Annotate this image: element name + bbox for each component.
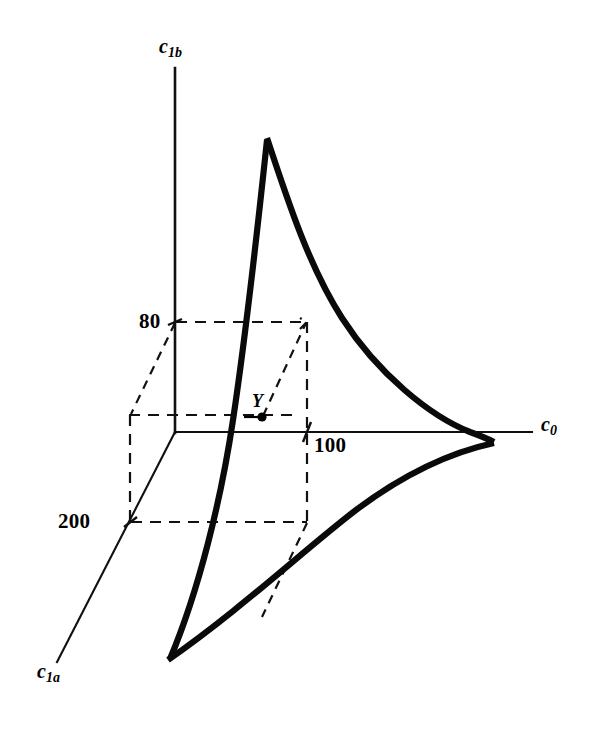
axis-group [57, 68, 532, 662]
point-label-Y: Y [252, 392, 263, 410]
axis-label-c1b-base: c [159, 35, 168, 57]
point-Y-group [244, 412, 267, 421]
axis-label-c1b-subscript: 1b [168, 45, 182, 60]
axis-label-c1b: c1b [159, 36, 182, 60]
point-Y-dot [257, 412, 266, 421]
curve-upper-branch [267, 138, 494, 442]
box-edge-diagonal-y-to-corner [263, 323, 306, 416]
curve-lower-branch [168, 443, 494, 660]
axis-c1a-line [57, 432, 175, 662]
curve-group [168, 138, 494, 660]
figure-canvas [0, 0, 595, 733]
axis-label-c0-subscript: 0 [550, 423, 557, 438]
tick-label-80: 80 [139, 311, 161, 332]
axis-label-c0: c0 [541, 414, 557, 438]
tick-label-100: 100 [314, 435, 346, 456]
axis-label-c1a: c1a [37, 661, 60, 685]
figure-root: c1b c0 c1a 80 200 100 Y [0, 0, 595, 733]
box-edge-diagonal-top-left [131, 323, 175, 414]
axis-label-c1a-subscript: 1a [46, 670, 60, 685]
axis-label-c1a-base: c [37, 660, 46, 682]
tick-label-200: 200 [58, 511, 90, 532]
axis-label-c0-base: c [541, 413, 550, 435]
